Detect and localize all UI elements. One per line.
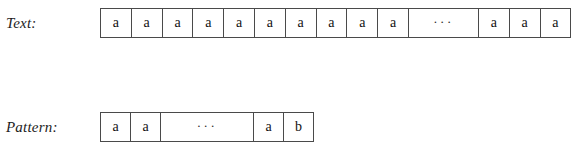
text-cell: a (286, 9, 317, 37)
text-cell: a (224, 9, 255, 37)
text-cell: a (193, 9, 224, 37)
text-cell: a (101, 9, 132, 37)
string-matching-figure: Text: aaaaaaaaaa···aaa Pattern: aa···ab (0, 0, 573, 157)
text-cell: a (378, 9, 409, 37)
pattern-cell: a (254, 113, 284, 141)
pattern-cell: a (101, 113, 131, 141)
pattern-row: Pattern: aa···ab (0, 112, 314, 142)
pattern-cell-strip: aa···ab (100, 112, 314, 142)
text-cell: a (541, 9, 572, 37)
pattern-cell: b (284, 113, 314, 141)
text-cell: a (317, 9, 348, 37)
text-row-label: Text: (0, 8, 100, 38)
text-cell: a (479, 9, 510, 37)
text-cell: a (163, 9, 194, 37)
text-ellipsis-cell: ··· (409, 9, 479, 37)
text-cell: a (132, 9, 163, 37)
pattern-cell: a (131, 113, 161, 141)
text-cell: a (347, 9, 378, 37)
text-cell: a (255, 9, 286, 37)
pattern-row-label: Pattern: (0, 112, 100, 142)
pattern-ellipsis-cell: ··· (161, 113, 254, 141)
text-row: Text: aaaaaaaaaa···aaa (0, 8, 571, 38)
text-cell: a (510, 9, 541, 37)
text-cell-strip: aaaaaaaaaa···aaa (100, 8, 571, 38)
